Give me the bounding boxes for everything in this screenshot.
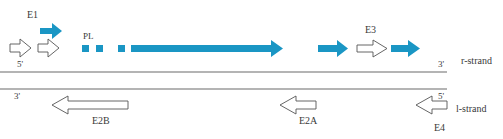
l-strand-3prime-label: 3' <box>14 91 20 102</box>
e2b-label: E2B <box>92 115 110 126</box>
e3-label: E3 <box>365 24 376 35</box>
l-strand-5prime-label: 5' <box>438 91 444 102</box>
pl-dash-2 <box>96 45 103 52</box>
r-strand-5prime-label: 5' <box>17 59 23 70</box>
e1-label: E1 <box>27 9 38 20</box>
e4-label: E4 <box>434 122 445 133</box>
pl-dash-3 <box>118 45 125 52</box>
e1-open-arrow-2 <box>38 39 59 57</box>
e2a-open-arrow <box>280 96 316 114</box>
r-strand-3prime-label: 3' <box>438 59 444 70</box>
adenovirus-transcription-map <box>0 0 503 139</box>
e1-open-arrow-1 <box>10 39 31 57</box>
pl-label: PL <box>83 31 94 42</box>
e1-filled-arrow <box>40 23 62 39</box>
late-transcript-arrow <box>131 40 283 57</box>
e3-open-arrow <box>357 40 387 57</box>
l-strand-label: l-strand <box>456 103 487 114</box>
pl-dash-1 <box>82 45 89 52</box>
filled-arrow-3 <box>391 40 420 57</box>
r-strand-label: r-strand <box>461 55 492 66</box>
filled-arrow-2 <box>318 40 348 57</box>
e2b-open-arrow <box>52 96 128 114</box>
e2a-label: E2A <box>299 115 317 126</box>
